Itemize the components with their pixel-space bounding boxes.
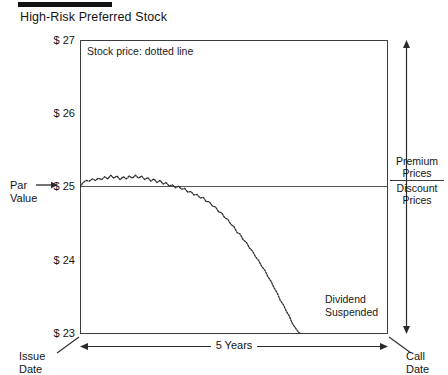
call-date-line1: Call [406,350,429,363]
discount-label-line1: Discount [388,182,446,194]
plot-frame [80,40,388,334]
par-value-label: Par Value [10,179,37,204]
par-value-line2: Value [10,192,37,205]
x-span-label-text: 5 Years [211,339,258,351]
y-tick-24: $ 24 [54,254,75,266]
call-date-label: Call Date [406,350,429,375]
par-value-arrow-icon [36,180,58,190]
y-tick-26: $ 26 [54,107,75,119]
premium-discount-labels: Premium Prices Discount Prices [388,155,446,206]
premium-label-line2: Prices [388,167,446,179]
call-date-line2: Date [406,363,429,375]
premium-discount-divider [390,180,444,181]
issue-date-leader-icon [55,336,81,354]
issue-date-line2: Date [19,363,45,375]
annotation-dividend-line1: Dividend [325,293,378,306]
par-value-reference-line [80,186,388,187]
x-span-label: 5 Years [80,339,388,351]
y-tick-27: $ 27 [54,34,75,46]
annotation-dividend-suspended: Dividend Suspended [325,293,378,318]
premium-label-line1: Premium [388,155,446,167]
chart-page: High-Risk Preferred Stock $ 27 $ 26 $ 25… [0,0,448,375]
annotation-dividend-line2: Suspended [325,306,378,319]
par-value-line1: Par [10,179,37,192]
legend-note: Stock price: dotted line [87,45,193,57]
discount-label-line2: Prices [388,194,446,206]
issue-date-line1: Issue [19,350,45,363]
issue-date-label: Issue Date [19,350,45,375]
